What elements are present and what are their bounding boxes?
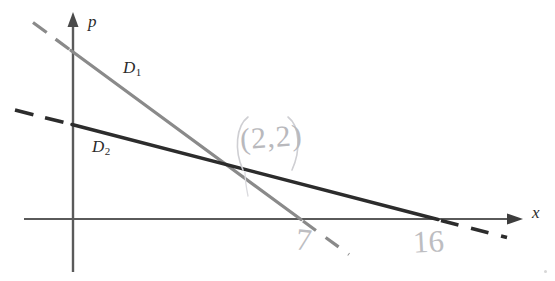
pencil-annotation-coordinates: (2,2): [239, 118, 304, 156]
price-axis-arrowhead: [68, 12, 79, 27]
curve-d1-dashed-upper: [33, 23, 71, 51]
curve-label-d2-letter: D: [92, 137, 104, 156]
curve-d2-dashed-left: [15, 110, 72, 125]
curve-label-d1-letter: D: [123, 58, 135, 77]
curve-label-d2-subscript: 2: [105, 145, 111, 157]
quantity-axis-label: x: [532, 203, 540, 223]
pencil-tail-stroke: [245, 172, 248, 196]
curve-label-d1: D1: [123, 58, 141, 78]
scan-speck: [544, 270, 547, 273]
price-axis-label: p: [88, 12, 97, 32]
curve-d2-dashed-right: [441, 221, 507, 238]
demand-curve-figure: p x D1 D2 (2,2) 7 16: [0, 0, 555, 281]
quantity-axis-arrowhead: [507, 214, 523, 225]
curve-label-d1-subscript: 1: [136, 66, 142, 78]
curve-label-d2: D2: [92, 137, 110, 157]
pencil-annotation-x-intercept-d2: 16: [412, 223, 445, 261]
